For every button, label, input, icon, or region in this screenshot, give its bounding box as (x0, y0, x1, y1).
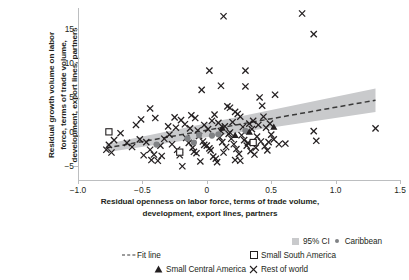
plot-area: −5051015 −1.0−0.500.51.01.5 (78, 8, 400, 180)
x-tick-mark (142, 180, 143, 184)
y-axis-title: Residual growth volume on labor force, t… (46, 4, 81, 186)
legend-label-caribbean: Caribbean (345, 237, 382, 246)
x-tick-mark (207, 180, 208, 184)
scatter-svg (78, 8, 400, 180)
legend-item-rest-of-world: Rest of world (246, 265, 308, 274)
x-tick-label: 1.0 (330, 185, 342, 195)
chart-legend: 95% CI Caribbean Fit line Small South Am… (122, 234, 382, 276)
legend-row: Small Central America Rest of world (122, 262, 382, 276)
plot-inner (78, 8, 400, 180)
legend-item-caribbean: Caribbean (330, 237, 382, 246)
x-tick-mark (400, 180, 401, 184)
y-tick-mark (74, 132, 78, 133)
x-axis-title-line-2: development, export lines, partners (60, 208, 360, 220)
y-tick-mark (74, 63, 78, 64)
x-axis-title: Residual openness on labor force, terms … (60, 196, 360, 219)
x-tick-label: 0.5 (265, 185, 277, 195)
y-axis-title-container: Residual growth volume on labor force, t… (0, 0, 52, 190)
y-tick-label: 10 (65, 58, 74, 68)
y-tick-label: −5 (64, 161, 74, 171)
triangle-marker-icon (151, 265, 166, 273)
legend-item-ci: 95% CI (206, 237, 330, 246)
dashed-line-icon (122, 251, 137, 259)
legend-row: 95% CI Caribbean (122, 234, 382, 248)
x-tick-label: −0.5 (134, 185, 151, 195)
x-tick-label: 1.5 (394, 185, 406, 195)
open-square-marker-icon (246, 251, 261, 259)
x-tick-mark (271, 180, 272, 184)
y-tick-mark (74, 166, 78, 167)
y-tick-label: 15 (65, 24, 74, 34)
y-tick-mark (74, 29, 78, 30)
legend-label-fit-line: Fit line (137, 251, 161, 260)
x-marker-icon (246, 265, 261, 274)
x-axis-title-line-1: Residual openness on labor force, terms … (60, 196, 360, 208)
legend-item-small-south-america: Small South America (246, 251, 336, 260)
scatter-plot-figure: Residual growth volume on labor force, t… (0, 0, 409, 280)
y-tick-mark (74, 97, 78, 98)
legend-label-ci: 95% CI (303, 237, 330, 246)
ci-swatch-icon (288, 238, 303, 245)
x-tick-mark (336, 180, 337, 184)
x-tick-label: 0 (204, 185, 209, 195)
circle-marker-icon (330, 239, 345, 243)
legend-row: Fit line Small South America (122, 248, 382, 262)
legend-label-small-central-america: Small Central America (166, 265, 246, 274)
x-tick-mark (78, 180, 79, 184)
y-axis-title-line-1: Residual growth volume on labor (46, 4, 58, 186)
legend-label-rest-of-world: Rest of world (261, 265, 308, 274)
legend-label-small-south-america: Small South America (261, 251, 336, 260)
legend-item-small-central-america: Small Central America (122, 265, 246, 274)
legend-item-fit-line: Fit line (122, 251, 246, 260)
x-tick-label: −1.0 (70, 185, 87, 195)
x-axis-line (78, 180, 400, 181)
